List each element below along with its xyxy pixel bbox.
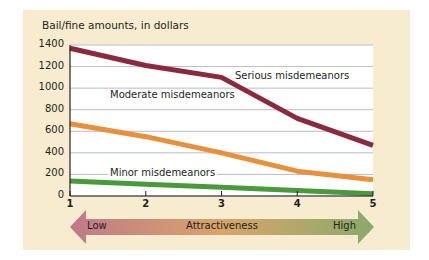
x-tick-label: 5	[363, 198, 383, 209]
y-tick-label: 0	[24, 189, 64, 200]
series-label-minor: Minor misdemeanors	[108, 167, 217, 178]
y-tick-label: 1400	[24, 38, 64, 49]
x-tick-label: 2	[136, 198, 156, 209]
y-tick-label: 800	[24, 103, 64, 114]
arrow-center-label: Attractiveness	[186, 220, 258, 231]
y-tick-label: 200	[24, 167, 64, 178]
y-tick-label: 400	[24, 146, 64, 157]
x-tick-label: 4	[287, 198, 307, 209]
y-tick-label: 1000	[24, 81, 64, 92]
arrow-high-label: High	[333, 220, 356, 231]
x-tick-label: 1	[60, 198, 80, 209]
series-label-serious: Serious misdemeanors	[233, 70, 351, 81]
x-tick-label: 3	[212, 198, 232, 209]
y-tick-label: 600	[24, 124, 64, 135]
arrow-low-label: Low	[87, 220, 107, 231]
y-tick-label: 1200	[24, 60, 64, 71]
series-label-moderate: Moderate misdemeanors	[108, 89, 237, 100]
